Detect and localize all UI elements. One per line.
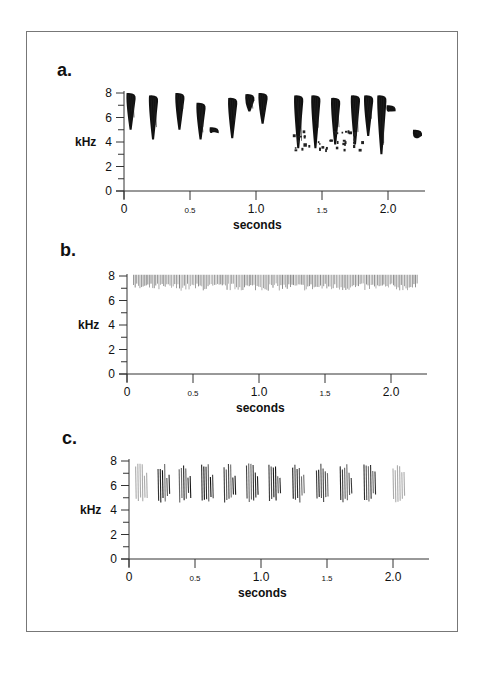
svg-text:8: 8	[105, 86, 112, 100]
svg-text:1.0: 1.0	[253, 570, 270, 584]
svg-text:4: 4	[105, 135, 112, 149]
svg-text:0.5: 0.5	[187, 389, 199, 398]
svg-text:1.5: 1.5	[321, 574, 333, 583]
svg-text:0: 0	[110, 552, 117, 566]
svg-text:2: 2	[108, 343, 115, 357]
svg-text:4: 4	[108, 318, 115, 332]
svg-text:2: 2	[110, 528, 117, 542]
svg-text:0: 0	[124, 385, 131, 399]
svg-text:2: 2	[105, 160, 112, 174]
panel-b-plot: 0246800.51.01.52.0	[108, 269, 427, 399]
panel-a-plot: 0246800.51.01.52.0	[105, 86, 425, 216]
svg-text:6: 6	[105, 111, 112, 125]
svg-text:0: 0	[121, 202, 128, 216]
svg-text:1.0: 1.0	[248, 202, 265, 216]
svg-text:4: 4	[110, 503, 117, 517]
svg-text:0: 0	[126, 570, 133, 584]
svg-text:2.0: 2.0	[383, 385, 400, 399]
svg-text:0: 0	[108, 367, 115, 381]
svg-text:8: 8	[108, 269, 115, 283]
panel-c-plot: 0246800.51.01.52.0	[110, 454, 429, 584]
svg-text:0: 0	[105, 184, 112, 198]
svg-text:2.0: 2.0	[385, 570, 402, 584]
svg-text:8: 8	[110, 454, 117, 468]
svg-text:1.5: 1.5	[316, 206, 328, 215]
svg-text:6: 6	[110, 479, 117, 493]
spectrogram-plots: 0246800.51.01.52.00246800.51.01.52.00246…	[0, 0, 488, 673]
svg-text:2.0: 2.0	[380, 202, 397, 216]
svg-text:1.5: 1.5	[319, 389, 331, 398]
svg-text:6: 6	[108, 294, 115, 308]
svg-text:0.5: 0.5	[184, 206, 196, 215]
svg-text:0.5: 0.5	[189, 574, 201, 583]
svg-text:1.0: 1.0	[251, 385, 268, 399]
